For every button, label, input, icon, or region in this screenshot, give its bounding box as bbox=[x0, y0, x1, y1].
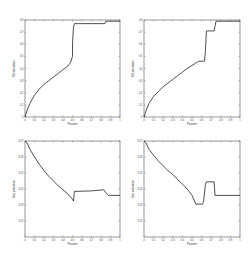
x-tick-label: 0.2 bbox=[161, 238, 165, 242]
x-axis-label: Position bbox=[187, 242, 197, 246]
y-tick-label: 0.5 bbox=[139, 54, 143, 58]
x-tick-label: 0.7 bbox=[90, 118, 94, 122]
x-tick-label: 1 bbox=[239, 118, 241, 122]
x-tick-label: 0.3 bbox=[171, 118, 175, 122]
y-tick-label: 0.4 bbox=[139, 67, 143, 71]
chart-panel-bottom-left: 00.10.20.30.40.50.60.70.80.910.220.230.2… bbox=[12, 139, 121, 246]
y-tick-label: 0.8 bbox=[20, 18, 24, 22]
y-tick-label: 0.22 bbox=[18, 219, 24, 223]
y-tick-label: 0.7 bbox=[139, 30, 143, 34]
x-tick-label: 0.1 bbox=[152, 118, 156, 122]
x-tick-label: 0.6 bbox=[80, 118, 84, 122]
plot-frame bbox=[144, 20, 240, 117]
x-tick-label: 0.1 bbox=[152, 238, 156, 242]
x-tick-label: 1 bbox=[119, 238, 121, 242]
x-tick-label: 0.2 bbox=[42, 118, 46, 122]
x-tick-label: 0.4 bbox=[181, 118, 185, 122]
y-tick-label: 0.8 bbox=[139, 18, 143, 22]
x-tick-label: 0.8 bbox=[99, 118, 103, 122]
x-tick-label: 0.8 bbox=[99, 238, 103, 242]
x-tick-label: 0.7 bbox=[90, 238, 94, 242]
x-tick-label: 1 bbox=[119, 118, 121, 122]
x-tick-label: 0 bbox=[143, 118, 145, 122]
y-tick-label: 0.22 bbox=[137, 219, 143, 223]
x-tick-label: 0.8 bbox=[219, 238, 223, 242]
y-tick-label: 0.27 bbox=[18, 139, 24, 143]
x-axis-label: Position bbox=[68, 242, 78, 246]
x-tick-label: 0.9 bbox=[109, 238, 113, 242]
y-tick-label: 0.6 bbox=[20, 42, 24, 46]
figure: 00.10.20.30.40.50.60.70.80.9100.10.20.30… bbox=[0, 0, 252, 257]
y-axis-label: Gas saturation bbox=[12, 179, 16, 198]
y-axis-label: Gas saturation bbox=[131, 179, 135, 198]
x-tick-label: 0.4 bbox=[61, 238, 65, 242]
x-tick-label: 0.7 bbox=[209, 118, 213, 122]
x-tick-label: 0.1 bbox=[33, 238, 37, 242]
x-tick-label: 0 bbox=[143, 238, 145, 242]
y-tick-label: 0.27 bbox=[137, 139, 143, 143]
x-tick-label: 0.8 bbox=[219, 118, 223, 122]
x-tick-label: 0.6 bbox=[80, 238, 84, 242]
x-tick-label: 0.4 bbox=[181, 238, 185, 242]
x-tick-label: 0.6 bbox=[200, 238, 204, 242]
y-axis-label: Oil saturation bbox=[12, 60, 16, 77]
x-tick-label: 0.1 bbox=[33, 118, 37, 122]
x-axis-label: Position bbox=[187, 122, 197, 126]
x-tick-label: 0.9 bbox=[109, 118, 113, 122]
y-tick-label: 0.24 bbox=[18, 187, 24, 191]
y-axis-label: Oil saturation bbox=[131, 60, 135, 77]
y-tick-label: 0.1 bbox=[20, 103, 24, 107]
y-tick-label: 0.3 bbox=[139, 79, 143, 83]
data-series-line bbox=[144, 21, 240, 117]
data-series-line bbox=[144, 141, 240, 204]
x-tick-label: 0.7 bbox=[209, 238, 213, 242]
y-tick-label: 0.5 bbox=[20, 54, 24, 58]
chart-panel-top-left: 00.10.20.30.40.50.60.70.80.9100.10.20.30… bbox=[12, 18, 121, 126]
chart-panel-top-right: 00.10.20.30.40.50.60.70.80.9100.10.20.30… bbox=[131, 18, 241, 126]
y-tick-label: 0.6 bbox=[139, 42, 143, 46]
x-axis-label: Position bbox=[68, 122, 78, 126]
plot-frame bbox=[25, 141, 120, 237]
plot-frame bbox=[25, 20, 120, 117]
x-tick-label: 0 bbox=[24, 118, 26, 122]
x-tick-label: 0 bbox=[24, 238, 26, 242]
plot-frame bbox=[144, 141, 240, 237]
x-tick-label: 0.3 bbox=[52, 118, 56, 122]
y-tick-label: 0.23 bbox=[18, 203, 24, 207]
x-tick-label: 0.3 bbox=[52, 238, 56, 242]
y-tick-label: 0.1 bbox=[139, 103, 143, 107]
data-series-line bbox=[25, 21, 120, 117]
x-tick-label: 0.6 bbox=[200, 118, 204, 122]
y-tick-label: 0.24 bbox=[137, 187, 143, 191]
y-tick-label: 0.4 bbox=[20, 67, 24, 71]
chart-panel-bottom-right: 00.10.20.30.40.50.60.70.80.910.220.230.2… bbox=[131, 139, 241, 246]
x-tick-label: 0.9 bbox=[229, 118, 233, 122]
x-tick-label: 0.2 bbox=[42, 238, 46, 242]
y-tick-label: 0.2 bbox=[139, 91, 143, 95]
y-tick-label: 0.25 bbox=[18, 171, 24, 175]
y-tick-label: 0.26 bbox=[137, 155, 143, 159]
y-tick-label: 0.25 bbox=[137, 171, 143, 175]
x-tick-label: 0.2 bbox=[161, 118, 165, 122]
y-tick-label: 0.3 bbox=[20, 79, 24, 83]
y-tick-label: 0.26 bbox=[18, 155, 24, 159]
x-tick-label: 0.9 bbox=[229, 238, 233, 242]
y-tick-label: 0.23 bbox=[137, 203, 143, 207]
y-tick-label: 0.2 bbox=[20, 91, 24, 95]
y-tick-label: 0.7 bbox=[20, 30, 24, 34]
data-series-line bbox=[25, 141, 120, 201]
x-tick-label: 1 bbox=[239, 238, 241, 242]
x-tick-label: 0.3 bbox=[171, 238, 175, 242]
x-tick-label: 0.4 bbox=[61, 118, 65, 122]
